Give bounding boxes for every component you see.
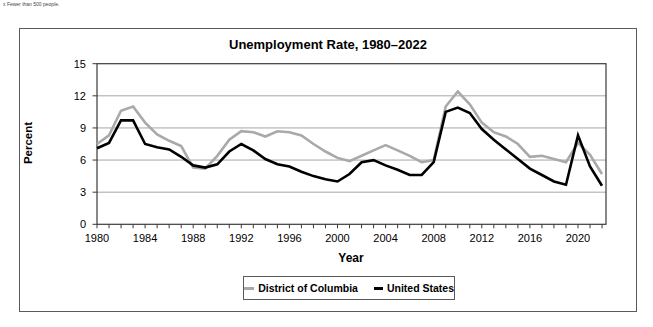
svg-text:6: 6 [80,154,86,166]
svg-text:2012: 2012 [470,232,494,244]
svg-text:1980: 1980 [85,232,109,244]
page-footnote: x Fewer than 500 people. [3,1,59,7]
legend-label-us: United States [387,282,454,294]
unemployment-line-chart: 0369121519801984198819921996200020042008… [20,29,636,311]
x-axis-title: Year [271,251,431,265]
svg-text:1984: 1984 [133,232,157,244]
legend-label-dc: District of Columbia [258,282,358,294]
svg-text:9: 9 [80,122,86,134]
y-axis-title: Percent [22,83,34,203]
legend-line-sample-dc [244,287,254,290]
svg-text:1988: 1988 [181,232,205,244]
svg-text:1992: 1992 [229,232,253,244]
svg-text:2008: 2008 [421,232,445,244]
legend-line-sample-us [374,287,383,290]
svg-text:2004: 2004 [373,232,397,244]
svg-text:2000: 2000 [325,232,349,244]
svg-text:12: 12 [74,90,86,102]
figure-frame: Unemployment Rate, 1980–2022 03691215198… [19,28,637,312]
svg-text:2016: 2016 [518,232,542,244]
svg-text:0: 0 [80,218,86,230]
svg-text:2020: 2020 [566,232,590,244]
svg-text:1996: 1996 [277,232,301,244]
svg-text:3: 3 [80,186,86,198]
chart-legend: District of Columbia United States [243,276,455,300]
svg-text:15: 15 [74,58,86,70]
